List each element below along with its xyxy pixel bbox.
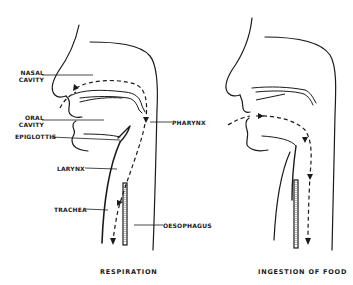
caption-respiration: RESPIRATION [100,268,157,276]
label-trachea: TRACHEA [54,206,87,213]
oral-floor-2 [262,136,296,146]
label-pharynx: PHARYNX [172,119,206,126]
upper-lip [66,96,82,117]
label-epiglottis: EPIGLOTTIS [15,133,56,140]
larynx-front-2 [274,152,290,240]
palate-lower [80,97,142,114]
anatomy-diagram: NASAL CAVITY ORAL CAVITY EPIGLOTTIS LARY… [0,0,353,285]
label-larynx: LARYNX [57,165,85,172]
label-oral-cavity: ORAL CAVITY [4,114,44,128]
head-back-outline [90,42,157,250]
oral-floor [84,134,120,137]
lower-lip-chin [72,121,88,151]
respiration-panel [42,25,172,250]
label-nasal-cavity: NASAL CAVITY [4,69,44,83]
label-oesophagus: OESOPHAGUS [163,222,212,229]
tongue-surface [80,98,122,102]
nose-profile-2 [226,18,252,96]
lower-lip-chin-2 [246,118,268,151]
trachea-front-wall [102,142,120,243]
upper-lip-2 [240,95,250,112]
food-path [256,116,311,240]
diagram-artwork [0,0,353,285]
ingestion-panel [226,18,336,250]
caption-ingestion-of-food: INGESTION OF FOOD [258,268,347,276]
